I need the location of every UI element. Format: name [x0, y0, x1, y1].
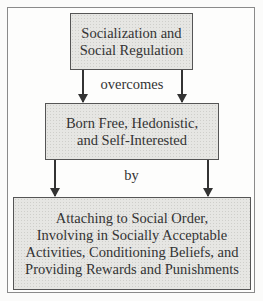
box-attaching-line-3: Activities, Conditioning Beliefs, and	[25, 244, 239, 261]
connector-label-by: by	[100, 167, 163, 184]
box-born-free: Born Free, Hedonistic, and Self-Interest…	[45, 103, 219, 160]
box-attaching-line-2: Involving in Socially Acceptable	[25, 227, 239, 244]
box-socialization: Socialization and Social Regulation	[70, 13, 193, 70]
box-socialization-line-2: Social Regulation	[80, 42, 184, 59]
box-attaching-line-4: Providing Rewards and Punishments	[25, 261, 239, 278]
box-attaching-line-1: Attaching to Social Order,	[25, 210, 239, 227]
box-attaching: Attaching to Social Order, Involving in …	[13, 197, 251, 290]
box-socialization-line-1: Socialization and	[80, 25, 184, 42]
arrow-down-icon	[181, 70, 183, 102]
connector-label-overcomes: overcomes	[90, 76, 174, 93]
arrow-down-icon	[82, 70, 84, 102]
arrow-down-icon	[207, 160, 209, 196]
box-born-free-line-1: Born Free, Hedonistic,	[66, 115, 198, 132]
box-born-free-line-2: and Self-Interested	[66, 132, 198, 149]
arrow-down-icon	[54, 160, 56, 196]
